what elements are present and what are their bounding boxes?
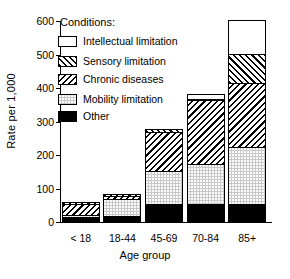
y-tick-label: 600 [20,16,54,27]
bar-70-84 [187,21,225,222]
legend-entry: Chronic diseases [58,73,178,86]
bar-segment [62,204,100,216]
bar-segment [228,83,266,148]
legend-swatch-icon [58,74,77,85]
bar-segment [145,204,183,222]
bar-segment [228,204,266,222]
bar-segment [103,194,141,197]
x-axis-title-label: Age group [120,249,171,261]
bar-segment [228,54,266,84]
y-tick-label: 200 [20,150,54,161]
legend-entry: Other [58,110,178,123]
bar-segment [103,199,141,217]
legend-entry: Mobility limitation [58,93,178,106]
bar-segment [145,171,183,206]
bar-segment [228,147,266,204]
bar-segment [187,204,225,222]
legend-entry: Sensory limitation [58,55,178,68]
y-tick-label: 300 [20,117,54,128]
x-axis-title: Age group [0,249,290,261]
legend-entry-label: Intellectual limitation [83,36,178,47]
legend-swatch-icon [58,94,77,105]
y-tick-label: 500 [20,50,54,61]
legend-swatch-icon [58,36,77,47]
legend-entry-label: Sensory limitation [83,56,166,67]
legend-title: Conditions: [60,16,178,28]
legend-entry-label: Chronic diseases [83,74,164,85]
y-axis-title-label: Rate per 1,000 [5,73,17,149]
legend-entries: Intellectual limitationSensory limitatio… [58,35,178,123]
x-axis-line [60,222,272,223]
legend-swatch-icon [58,111,77,122]
y-axis-title: Rate per 1,000 [2,0,20,222]
legend-entry-label: Mobility limitation [83,94,163,105]
bar-85- [228,21,266,222]
legend-entry: Intellectual limitation [58,35,178,48]
y-tick-label: 0 [20,217,54,228]
y-tick-label: 100 [20,184,54,195]
bar-segment [228,20,266,55]
bar-segment [145,129,183,133]
x-tick-label: 85+ [217,232,277,244]
legend: Conditions: Intellectual limitationSenso… [58,16,178,128]
bar-segment [187,94,225,99]
bar-segment [62,202,100,205]
bar-segment [187,164,225,205]
legend-entry-label: Other [83,111,109,122]
bar-segment [187,100,225,165]
stacked-bar-chart: Rate per 1,000 6005004003002001000 < 181… [0,0,290,279]
y-tick-label: 400 [20,83,54,94]
bar-segment [145,132,183,172]
legend-swatch-icon [58,56,77,67]
